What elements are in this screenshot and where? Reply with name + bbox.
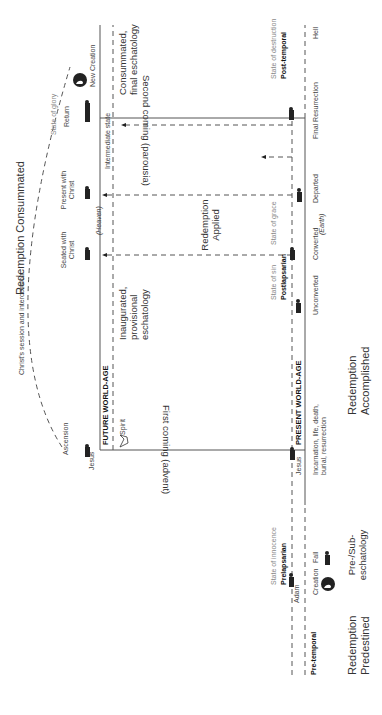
final-resurrection-label: Final Resurrection [312,82,320,139]
heading-pre-sub-eschatology: Pre-/Sub-eschatology [347,525,369,585]
converted-label: Converted [312,228,320,260]
adam-label: Adam [293,585,301,603]
heading-redemption-accomplished: Redemption Accomplished [346,345,371,415]
person-icon-converted [290,247,295,260]
redemption-diagram: Redemption Consummated Redemption Predes… [0,0,382,715]
present-with-christ-label: Present with Christ [60,170,76,210]
first-coming-label: First coming (advent) [160,405,171,495]
converted-arrowhead [102,253,107,257]
person-icon-present [85,186,90,199]
person-icon-seated [85,247,90,260]
fall-arrowhead [261,155,266,159]
person-icon-departed [297,188,302,202]
creation-label: Creation [312,569,320,595]
second-coming-label: Second coming (parousia) [140,75,151,195]
incarnation-label: Incarnation, life, death, burial, resurr… [312,395,328,475]
dove-icon-spirit [120,435,128,447]
new-creation-label: New Creation [89,45,97,87]
prelapsarian-label: Prelapsarian [280,543,288,585]
heading-redemption-applied: Redemption Applied [200,195,222,255]
ascension-label: Ascension [62,423,70,455]
person-icon-unconverted [296,299,301,313]
intermediate-state-label: Intermediate state [104,113,112,169]
departed-arrowhead [102,193,107,197]
present-world-age-label: PRESENT WORLD-AGE [295,360,304,445]
globe-icon-creation [321,577,335,591]
heading-redemption-predestined: Redemption Predestined [346,605,371,675]
fall-label: Fall [312,552,320,563]
state-of-innocence-label: State of innocence [270,527,278,585]
return-label: Return [63,106,71,127]
inaugurated-eschatology-label: Inaugurated, provisional eschatology [118,270,151,340]
pre-temporal-label: Pre-temporal [310,632,318,675]
jesus-bottom-label: Jesus [295,457,303,475]
state-of-glory-label: State of glory [50,94,58,135]
globe-icon-new-creation [73,73,87,87]
person-icon-return-2 [85,100,90,113]
state-of-sin-label: State of sin [270,265,278,300]
seated-with-christ-label: Seated with Christ [60,230,76,270]
session-label: Christ's session and intercession [18,273,26,375]
state-of-destruction-label: State of destruction [270,19,278,79]
final-res-arrowhead [121,123,126,127]
spirit-label: Spirit [119,419,127,435]
departed-label: Departed [312,174,320,203]
person-icon-final-resurrection [289,107,294,120]
state-of-grace-label: State of grace [270,201,278,245]
unconverted-label: Unconverted [312,275,320,315]
postlapsarian-label: Postlapsarian [280,254,288,300]
jesus-top-label: Jesus [88,452,96,470]
heaven-label: (Heaven) [95,206,103,235]
consummated-eschatology-label: Consummated, final eschatology [118,15,140,95]
person-icon-fall [325,551,330,565]
post-temporal-label: Post-temporal [280,32,288,79]
hell-label: Hell [312,27,320,39]
future-world-age-label: FUTURE WORLD-AGE [102,365,111,445]
